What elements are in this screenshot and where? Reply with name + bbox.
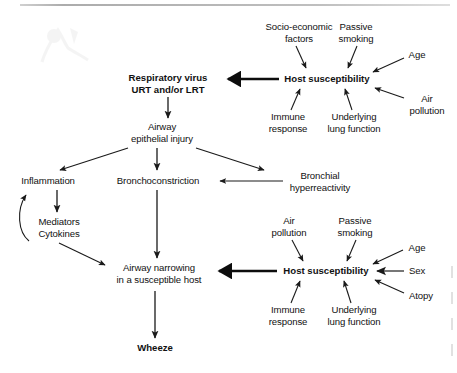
node-immune-response-bottom-line2: response [269,316,308,328]
node-atopy-label: Atopy [409,290,433,302]
node-airway-narrowing: Airway narrowing in a susceptible host [117,262,202,285]
node-socio-economic-line1: Socio-economic [266,21,333,33]
node-bronchial-hyperreactivity-line2: hyperreactivity [290,182,350,194]
node-host-susceptibility-bottom-label: Host susceptibility [283,265,368,277]
node-age-top: Age [409,49,426,61]
edge-air-pollution-to-host-top [375,88,404,98]
node-bronchoconstriction: Bronchoconstriction [117,175,199,187]
edge-passive-smoking-to-host-top [348,46,357,68]
node-immune-response-top-line2: response [269,123,308,135]
node-respiratory-virus: Respiratory virus URT and/or LRT [129,72,208,95]
node-airway-narrowing-line1: Airway narrowing [117,262,202,274]
edge-age-to-host-top [373,58,404,72]
edge-injury-to-inflammation [60,148,128,170]
node-passive-smoking-top-line2: smoking [338,33,373,45]
edge-socio-to-host-top [296,46,306,68]
node-passive-smoking-top: Passive smoking [338,21,373,44]
node-air-pollution-top-line1: Air [410,93,445,105]
node-passive-smoking-top-line1: Passive [338,21,373,33]
node-sex-label: Sex [409,265,425,277]
node-underlying-lung-top-line2: lung function [327,123,380,135]
node-air-pollution-top: Air pollution [410,93,445,116]
node-air-pollution-top-line2: pollution [410,105,445,117]
node-socio-economic-factors: Socio-economic factors [266,21,333,44]
node-mediators-cytokines: Mediators Cytokines [38,216,79,239]
node-wheeze: Wheeze [137,342,173,354]
node-passive-smoking-bottom: Passive smoking [337,215,372,238]
edge-mediators-to-airway-narrowing [59,243,105,265]
node-air-pollution-bottom: Air pollution [272,215,307,238]
edge-air-pollution-to-host-bottom [292,240,303,261]
node-age-top-label: Age [409,49,426,61]
node-underlying-lung-bottom-line1: Underlying [327,304,380,316]
edge-age-to-host-bottom [373,250,403,264]
node-underlying-lung-function-top: Underlying lung function [327,111,380,134]
node-airway-narrowing-line2: in a susceptible host [117,274,202,286]
edge-injury-to-hyperreactivity [196,148,264,170]
node-airway-injury-line1: Airway [131,121,193,133]
node-air-pollution-bottom-line1: Air [272,215,307,227]
node-underlying-lung-top-line1: Underlying [327,111,380,123]
node-atopy: Atopy [409,290,433,302]
node-passive-smoking-bottom-line1: Passive [337,215,372,227]
node-wheeze-label: Wheeze [137,342,173,354]
node-air-pollution-bottom-line2: pollution [272,227,307,239]
node-bronchoconstriction-label: Bronchoconstriction [117,175,199,187]
node-passive-smoking-bottom-line2: smoking [337,227,372,239]
node-host-susceptibility-bottom: Host susceptibility [283,265,368,277]
node-bronchial-hyperreactivity-line1: Bronchial [290,170,350,182]
node-host-susceptibility-top: Host susceptibility [284,73,369,85]
node-age-bottom: Age [409,242,426,254]
node-cytokines-line2: Cytokines [38,228,79,240]
edge-lungfn-to-host-bottom [344,281,351,303]
node-underlying-lung-bottom-line2: lung function [327,316,380,328]
node-inflammation-label: Inflammation [21,175,75,187]
diagram-canvas: Respiratory virus URT and/or LRT Host su… [0,0,457,373]
node-underlying-lung-function-bottom: Underlying lung function [327,304,380,327]
node-sex: Sex [409,265,425,277]
node-bronchial-hyperreactivity: Bronchial hyperreactivity [290,170,350,193]
edge-immune-to-host-bottom [291,281,300,303]
node-immune-response-bottom-line1: Immune [269,304,308,316]
edge-immune-to-host-top [291,89,300,110]
node-immune-response-top: Immune response [269,111,308,134]
node-immune-response-bottom: Immune response [269,304,308,327]
node-immune-response-top-line1: Immune [269,111,308,123]
node-host-susceptibility-top-label: Host susceptibility [284,73,369,85]
node-inflammation: Inflammation [21,175,75,187]
edge-mediators-to-inflammation-curved [20,195,29,241]
edge-atopy-to-host-bottom [375,280,404,293]
edge-lungfn-to-host-top [345,89,352,110]
node-socio-economic-line2: factors [266,33,333,45]
edge-passive-smoking-to-host-bottom [347,240,356,261]
node-airway-injury-line2: epithelial injury [131,133,193,145]
node-mediators-line1: Mediators [38,216,79,228]
node-age-bottom-label: Age [409,242,426,254]
node-airway-epithelial-injury: Airway epithelial injury [131,121,193,144]
node-respiratory-virus-line2: URT and/or LRT [129,84,208,96]
node-respiratory-virus-line1: Respiratory virus [129,72,208,84]
